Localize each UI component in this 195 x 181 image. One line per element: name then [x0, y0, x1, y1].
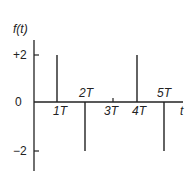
- x-tick-label-1T: 1T: [53, 104, 69, 118]
- x-tick-label-3T: 3T: [104, 104, 120, 118]
- x-tick-label-4T: 4T: [132, 104, 148, 118]
- y-axis-label: f(t): [13, 22, 28, 36]
- y-tick-label-zero: 0: [15, 95, 22, 109]
- x-tick-label-5T: 5T: [157, 86, 173, 100]
- y-tick-label-minus2: −2: [13, 144, 27, 158]
- x-tick-label-2T: 2T: [78, 86, 95, 100]
- impulse-chart: f(t) +2 0 −2 1T 2T 3T 4T 5T t: [0, 0, 195, 181]
- y-tick-label-plus2: +2: [13, 48, 27, 62]
- x-axis-label: t: [180, 104, 184, 118]
